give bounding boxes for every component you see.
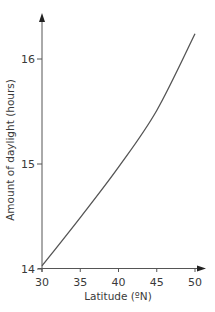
y-tick-label: 16	[21, 53, 35, 66]
y-axis-arrow-icon	[39, 13, 45, 22]
x-tick-label: 35	[73, 276, 87, 289]
y-tick-label: 14	[21, 263, 35, 276]
y-axis-label: Amount of daylight (hours)	[4, 79, 16, 221]
x-axis-label: Latitude (ºN)	[84, 290, 152, 302]
x-tick-label: 50	[188, 276, 202, 289]
data-line	[42, 34, 195, 266]
chart: 141516 3035404550 Latitude (ºN) Amount o…	[0, 0, 215, 312]
x-tick-label: 40	[112, 276, 126, 289]
x-tick-label: 45	[150, 276, 164, 289]
y-ticks: 141516	[21, 53, 42, 276]
x-axis-arrow-icon	[197, 266, 206, 272]
y-tick-label: 15	[21, 158, 35, 171]
x-ticks: 3035404550	[35, 269, 202, 290]
x-tick-label: 30	[35, 276, 49, 289]
